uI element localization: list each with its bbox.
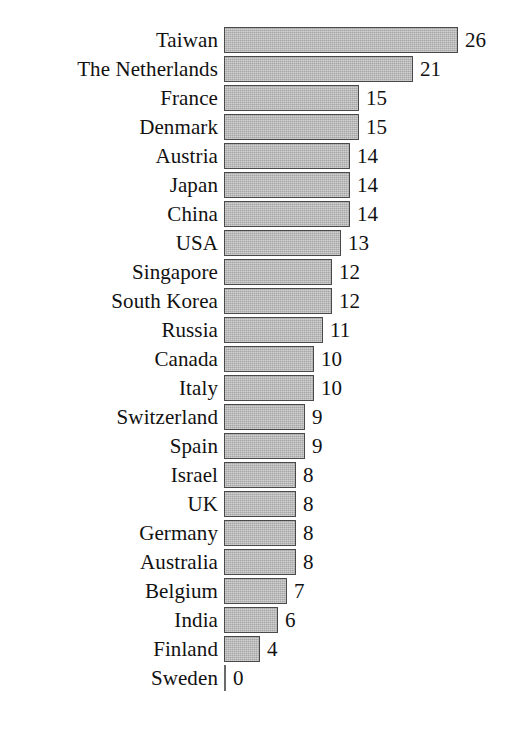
bar xyxy=(224,114,359,140)
bar-category-label: Italy xyxy=(0,375,218,401)
bar-row: UK8 xyxy=(0,491,522,520)
bar-row: USA13 xyxy=(0,230,522,259)
bar xyxy=(224,404,305,430)
bar-category-label: Finland xyxy=(0,636,218,662)
bar-value-label: 9 xyxy=(312,404,323,430)
bar-category-label: Germany xyxy=(0,520,218,546)
bar-row: Singapore12 xyxy=(0,259,522,288)
bar-category-label: Canada xyxy=(0,346,218,372)
bar-value-label: 12 xyxy=(339,288,360,314)
bar-category-label: Sweden xyxy=(0,665,218,691)
bar xyxy=(224,433,305,459)
bar-row: Taiwan26 xyxy=(0,27,522,56)
bar xyxy=(224,578,287,604)
bar-category-label: Taiwan xyxy=(0,27,218,53)
bar-category-label: Spain xyxy=(0,433,218,459)
bar xyxy=(224,288,332,314)
bar-row: Belgium7 xyxy=(0,578,522,607)
bar-value-label: 26 xyxy=(465,27,486,53)
bar-value-label: 8 xyxy=(303,549,314,575)
bar-row: Japan14 xyxy=(0,172,522,201)
bar-value-label: 0 xyxy=(233,665,244,691)
bar xyxy=(224,143,350,169)
bar-value-label: 10 xyxy=(321,375,342,401)
bar xyxy=(224,85,359,111)
bar-row: Spain9 xyxy=(0,433,522,462)
bar-value-label: 15 xyxy=(366,114,387,140)
bar xyxy=(224,520,296,546)
bar-category-label: South Korea xyxy=(0,288,218,314)
bar-value-label: 11 xyxy=(330,317,350,343)
bar-row: Sweden0 xyxy=(0,665,522,694)
bar-value-label: 8 xyxy=(303,491,314,517)
bar-value-label: 9 xyxy=(312,433,323,459)
bar-category-label: Australia xyxy=(0,549,218,575)
bar-category-label: Austria xyxy=(0,143,218,169)
bar xyxy=(224,549,296,575)
bar-value-label: 6 xyxy=(285,607,296,633)
bar-category-label: India xyxy=(0,607,218,633)
bar-row: Israel8 xyxy=(0,462,522,491)
bar-row: China14 xyxy=(0,201,522,230)
bar-chart: Taiwan26The Netherlands21France15Denmark… xyxy=(0,0,522,745)
bar-row: Russia11 xyxy=(0,317,522,346)
bar-category-label: Denmark xyxy=(0,114,218,140)
bar-row: Australia8 xyxy=(0,549,522,578)
bar xyxy=(224,172,350,198)
bar-value-label: 8 xyxy=(303,520,314,546)
bar-row: South Korea12 xyxy=(0,288,522,317)
bar-value-label: 14 xyxy=(357,201,378,227)
bar-category-label: USA xyxy=(0,230,218,256)
bar xyxy=(224,607,278,633)
bar-category-label: The Netherlands xyxy=(0,56,218,82)
bar-category-label: Belgium xyxy=(0,578,218,604)
bar-value-label: 21 xyxy=(420,56,441,82)
bar xyxy=(224,491,296,517)
bar-chart-rows: Taiwan26The Netherlands21France15Denmark… xyxy=(0,27,522,694)
bar-value-label: 8 xyxy=(303,462,314,488)
bar-category-label: UK xyxy=(0,491,218,517)
bar-value-label: 14 xyxy=(357,172,378,198)
bar xyxy=(224,317,323,343)
bar-category-label: Singapore xyxy=(0,259,218,285)
bar-category-label: Israel xyxy=(0,462,218,488)
bar-row: India6 xyxy=(0,607,522,636)
bar xyxy=(224,56,413,82)
bar-category-label: China xyxy=(0,201,218,227)
bar xyxy=(224,201,350,227)
bar-row: Germany8 xyxy=(0,520,522,549)
bar-value-label: 4 xyxy=(267,636,278,662)
bar-category-label: Switzerland xyxy=(0,404,218,430)
bar-value-label: 10 xyxy=(321,346,342,372)
bar-row: Italy10 xyxy=(0,375,522,404)
bar-row: Switzerland9 xyxy=(0,404,522,433)
bar-category-label: Russia xyxy=(0,317,218,343)
bar xyxy=(224,259,332,285)
bar-value-label: 15 xyxy=(366,85,387,111)
bar xyxy=(224,665,226,691)
bar xyxy=(224,27,458,53)
bar-row: The Netherlands21 xyxy=(0,56,522,85)
bar-value-label: 7 xyxy=(294,578,305,604)
bar-value-label: 13 xyxy=(348,230,369,256)
bar-row: Finland4 xyxy=(0,636,522,665)
bar xyxy=(224,346,314,372)
bar xyxy=(224,462,296,488)
bar-row: Denmark15 xyxy=(0,114,522,143)
bar-row: France15 xyxy=(0,85,522,114)
bar-value-label: 14 xyxy=(357,143,378,169)
bar xyxy=(224,230,341,256)
bar-value-label: 12 xyxy=(339,259,360,285)
bar-category-label: Japan xyxy=(0,172,218,198)
bar-category-label: France xyxy=(0,85,218,111)
bar-row: Austria14 xyxy=(0,143,522,172)
bar xyxy=(224,375,314,401)
bar xyxy=(224,636,260,662)
bar-row: Canada10 xyxy=(0,346,522,375)
